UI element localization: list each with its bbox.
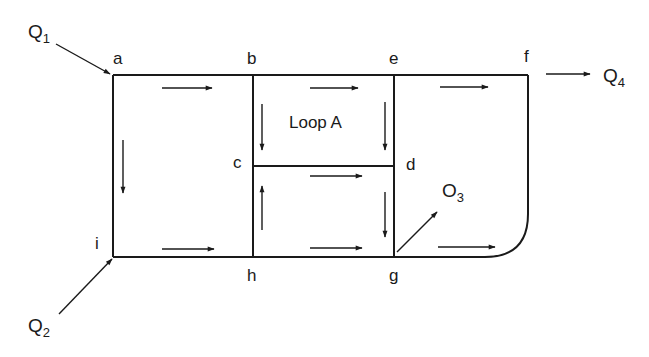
- node-label-c: c: [233, 153, 242, 172]
- flow-label-q1: Q1: [28, 21, 50, 46]
- loop-label: Loop A: [289, 113, 343, 132]
- pipe-network-diagram: a b c d e f g h i Loop A Q1 Q2 O3 Q4: [0, 0, 649, 357]
- node-label-i: i: [95, 234, 99, 253]
- node-label-g: g: [389, 266, 398, 285]
- flow-label-q4: Q4: [603, 65, 625, 90]
- node-label-f: f: [524, 47, 529, 66]
- node-label-h: h: [247, 266, 256, 285]
- node-label-b: b: [247, 49, 256, 68]
- flow-label-q3: O3: [442, 180, 464, 205]
- inflow-arrow-q2: [59, 259, 112, 314]
- node-label-d: d: [406, 155, 415, 174]
- outflow-arrow-q3: [397, 212, 437, 252]
- node-label-e: e: [389, 49, 398, 68]
- inflow-arrow-q1: [56, 44, 110, 74]
- flow-label-q2: Q2: [28, 315, 50, 340]
- node-label-a: a: [113, 49, 123, 68]
